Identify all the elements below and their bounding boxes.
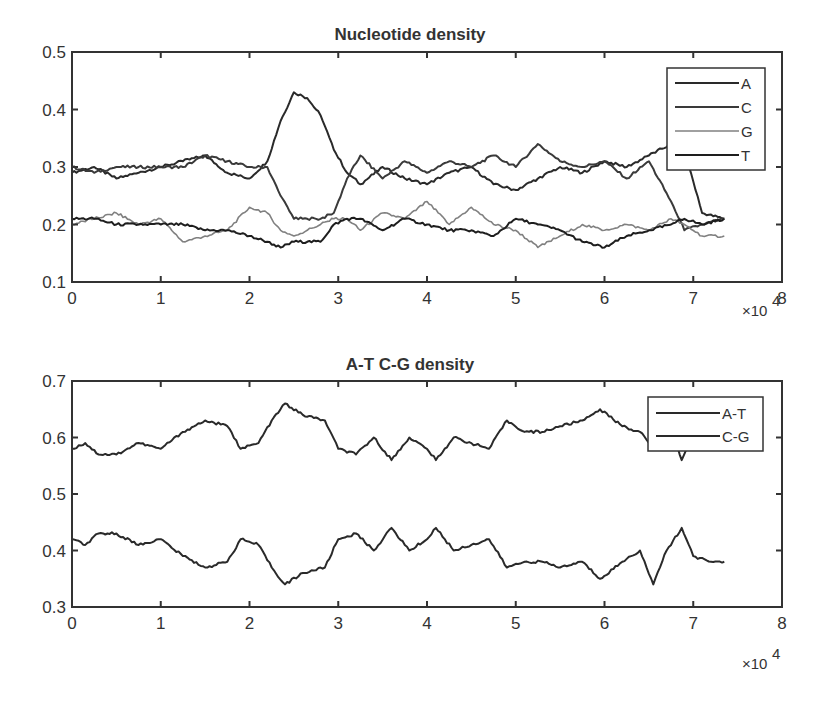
x-tick-label: 0 [67, 289, 76, 308]
x-tick-label: 2 [245, 614, 254, 633]
legend-label: C-G [722, 428, 750, 445]
x-tick-label: 5 [511, 289, 520, 308]
series-line-a-t [72, 404, 724, 461]
exponent-base: ×10 [742, 655, 767, 672]
legend: ACGT [667, 68, 765, 170]
figure: Nucleotide density 0123456780.10.20.30.4… [0, 0, 818, 706]
y-tick-label: 0.4 [42, 101, 66, 120]
series-line-a [72, 92, 724, 219]
x-tick-label: 4 [422, 289, 431, 308]
x-tick-label: 7 [689, 289, 698, 308]
legend-label: G [741, 123, 753, 140]
legend-label: C [741, 99, 752, 116]
legend-label: T [741, 147, 750, 164]
series-lines [72, 404, 724, 585]
y-tick-label: 0.3 [42, 598, 66, 617]
y-tick-label: 0.4 [42, 542, 66, 561]
x-tick-label: 2 [245, 289, 254, 308]
y-tick-label: 0.1 [42, 273, 66, 292]
nucleotide-density-plot: Nucleotide density 0123456780.10.20.30.4… [42, 25, 786, 319]
at-cg-density-plot: A-T C-G density 0123456780.30.40.50.60.7… [42, 355, 786, 672]
exponent-base: ×10 [742, 302, 767, 319]
x-tick-label: 1 [156, 289, 165, 308]
series-line-c [72, 144, 724, 230]
y-tick-label: 0.7 [42, 372, 66, 391]
x-tick-label: 3 [334, 289, 343, 308]
x-tick-label: 6 [600, 614, 609, 633]
legend-label: A [741, 75, 751, 92]
series-line-c-g [72, 528, 724, 585]
y-tick-label: 0.2 [42, 216, 66, 235]
x-tick-label: 7 [689, 614, 698, 633]
y-tick-label: 0.3 [42, 158, 66, 177]
y-tick-label: 0.5 [42, 43, 66, 62]
y-tick-label: 0.6 [42, 429, 66, 448]
x-tick-label: 5 [511, 614, 520, 633]
y-tick-label: 0.5 [42, 485, 66, 504]
x-tick-label: 0 [67, 614, 76, 633]
plot-title: Nucleotide density [334, 25, 486, 44]
x-exponent-label: ×10 4 [742, 292, 780, 319]
exponent-power: 4 [772, 645, 780, 662]
plot-title: A-T C-G density [346, 355, 475, 374]
series-lines [72, 92, 724, 247]
x-exponent-label: ×10 4 [742, 645, 780, 672]
x-tick-label: 4 [422, 614, 431, 633]
x-tick-label: 1 [156, 614, 165, 633]
x-tick-label: 3 [334, 614, 343, 633]
x-tick-label: 6 [600, 289, 609, 308]
legend: A-TC-G [648, 397, 763, 451]
legend-label: A-T [722, 405, 746, 422]
x-tick-label: 8 [777, 614, 786, 633]
exponent-power: 4 [772, 292, 780, 309]
series-line-t [72, 218, 724, 248]
